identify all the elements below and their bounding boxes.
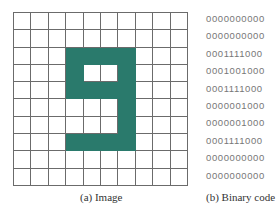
pixel-off [136, 134, 153, 151]
pixel-off [84, 65, 101, 82]
pixel-off [14, 151, 31, 168]
pixel-on [66, 65, 83, 82]
pixel-off [118, 13, 135, 30]
pixel-on [118, 134, 135, 151]
pixel-off [31, 169, 48, 186]
pixel-on [101, 82, 118, 99]
pixel-off [136, 99, 153, 116]
pixel-off [31, 151, 48, 168]
pixel-off [49, 151, 66, 168]
pixel-off [136, 48, 153, 65]
binary-code-row: 0000001000 [206, 114, 280, 131]
pixel-off [49, 65, 66, 82]
pixel-off [14, 48, 31, 65]
pixel-off [66, 151, 83, 168]
pixel-off [153, 13, 170, 30]
pixel-off [14, 134, 31, 151]
pixel-off [153, 169, 170, 186]
binary-code-row: 0001111000 [206, 132, 280, 149]
pixel-off [84, 99, 101, 116]
pixel-grid-image [13, 12, 188, 186]
pixel-off [14, 13, 31, 30]
pixel-on [66, 48, 83, 65]
pixel-off [49, 134, 66, 151]
pixel-off [84, 117, 101, 134]
pixel-off [31, 82, 48, 99]
binary-code-row: 0000000000 [206, 167, 280, 184]
pixel-off [136, 30, 153, 47]
pixel-on [118, 117, 135, 134]
pixel-off [171, 169, 188, 186]
pixel-off [101, 99, 118, 116]
pixel-off [14, 99, 31, 116]
binary-code-row: 0000000000 [206, 27, 280, 44]
pixel-on [84, 48, 101, 65]
pixel-off [101, 169, 118, 186]
binary-code-row: 0001111000 [206, 80, 280, 97]
pixel-off [31, 30, 48, 47]
pixel-off [118, 169, 135, 186]
pixel-off [171, 134, 188, 151]
pixel-on [84, 82, 101, 99]
pixel-off [101, 151, 118, 168]
pixel-on [101, 134, 118, 151]
pixel-off [118, 151, 135, 168]
binary-code-row: 0000000000 [206, 149, 280, 166]
pixel-off [66, 117, 83, 134]
pixel-off [31, 65, 48, 82]
pixel-off [153, 117, 170, 134]
pixel-off [153, 151, 170, 168]
pixel-off [153, 99, 170, 116]
pixel-off [14, 117, 31, 134]
pixel-off [136, 65, 153, 82]
pixel-on [118, 82, 135, 99]
pixel-off [14, 65, 31, 82]
pixel-off [31, 48, 48, 65]
pixel-off [66, 30, 83, 47]
pixel-off [136, 82, 153, 99]
pixel-off [49, 99, 66, 116]
pixel-off [171, 99, 188, 116]
pixel-off [84, 151, 101, 168]
pixel-off [153, 82, 170, 99]
pixel-off [84, 30, 101, 47]
pixel-off [14, 30, 31, 47]
pixel-off [31, 134, 48, 151]
pixel-off [66, 99, 83, 116]
pixel-off [153, 134, 170, 151]
pixel-off [153, 65, 170, 82]
pixel-off [14, 169, 31, 186]
binary-code-row: 0001001000 [206, 62, 280, 79]
pixel-off [49, 30, 66, 47]
pixel-on [118, 99, 135, 116]
pixel-off [66, 169, 83, 186]
pixel-off [153, 30, 170, 47]
pixel-off [101, 117, 118, 134]
binary-code-row: 0000001000 [206, 97, 280, 114]
pixel-off [171, 65, 188, 82]
pixel-off [49, 48, 66, 65]
pixel-off [171, 48, 188, 65]
pixel-off [101, 30, 118, 47]
pixel-off [118, 30, 135, 47]
pixel-on [101, 48, 118, 65]
pixel-off [136, 117, 153, 134]
pixel-off [153, 48, 170, 65]
pixel-off [84, 169, 101, 186]
pixel-off [136, 13, 153, 30]
pixel-off [171, 30, 188, 47]
pixel-off [171, 13, 188, 30]
pixel-on [66, 82, 83, 99]
pixel-off [101, 13, 118, 30]
pixel-off [49, 13, 66, 30]
pixel-off [136, 151, 153, 168]
pixel-off [66, 13, 83, 30]
pixel-off [49, 169, 66, 186]
pixel-off [171, 151, 188, 168]
pixel-on [84, 134, 101, 151]
pixel-off [171, 117, 188, 134]
pixel-on [118, 65, 135, 82]
binary-code-caption: (b) Binary code [206, 191, 275, 203]
binary-code-row: 0001111000 [206, 45, 280, 62]
pixel-off [84, 13, 101, 30]
